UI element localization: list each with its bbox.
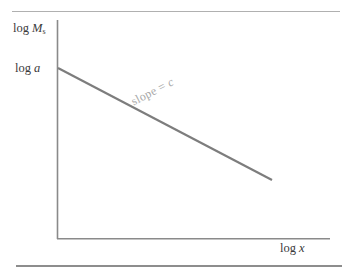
bottom-horizontal-rule xyxy=(16,265,342,267)
y-axis-label-symbol: M xyxy=(32,21,42,35)
figure-container: log Ms log a slope = c log x xyxy=(0,0,348,276)
plot-area xyxy=(0,0,348,276)
y-axis-label-subscript: s xyxy=(43,27,46,36)
chart-svg xyxy=(0,0,348,276)
y-intercept-label: log a xyxy=(15,62,40,75)
y-intercept-prefix: log xyxy=(15,61,34,75)
x-axis-label-prefix: log xyxy=(280,241,299,255)
y-intercept-symbol: a xyxy=(34,61,40,75)
y-axis-label: log Ms xyxy=(13,22,46,36)
x-axis-label: log x xyxy=(280,242,305,255)
x-axis-label-symbol: x xyxy=(299,241,305,255)
y-axis-label-prefix: log xyxy=(13,21,32,35)
